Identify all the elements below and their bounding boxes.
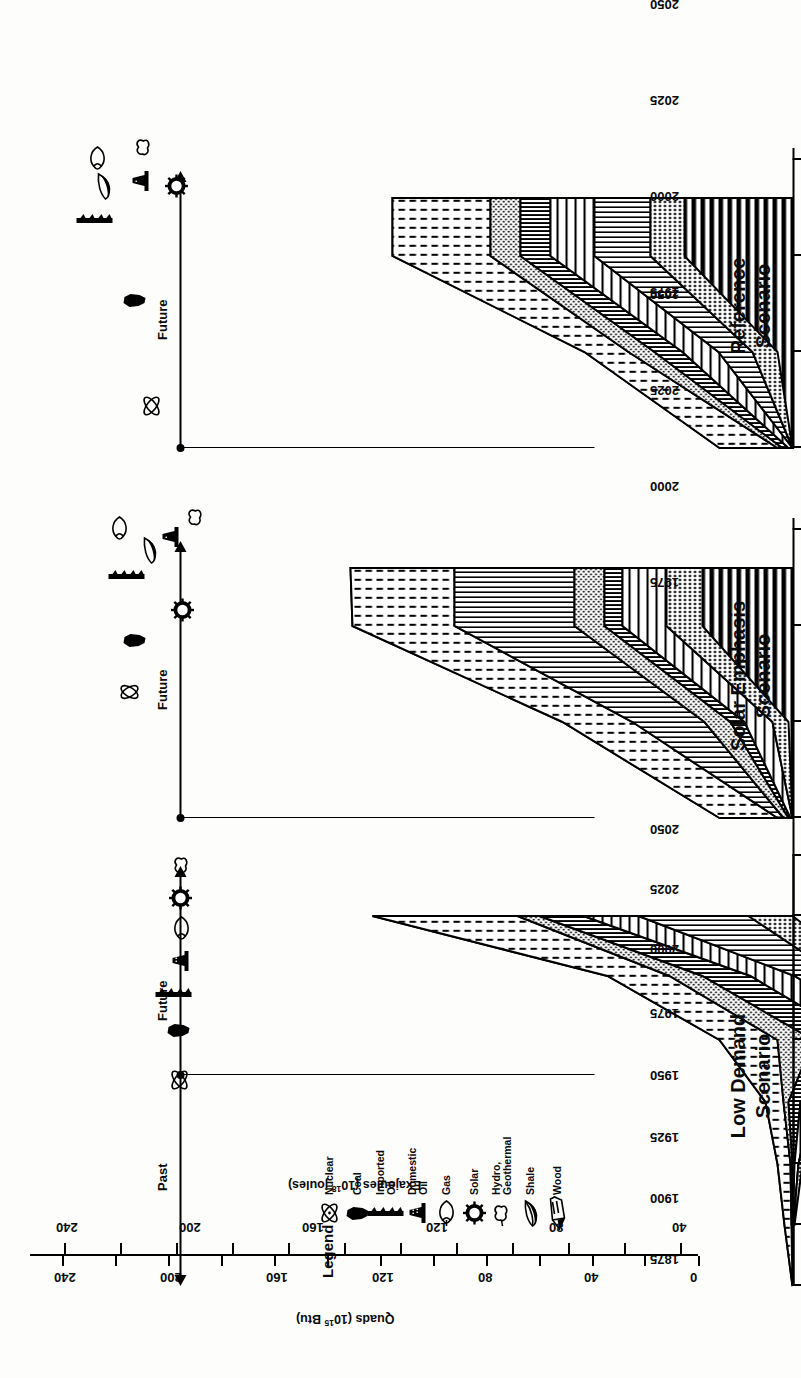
x-tick-label-solar: 1975: [650, 575, 679, 590]
x-tick-label-low-demand: 1925: [650, 1130, 679, 1145]
x-tick-label-low-demand: 1875: [650, 1252, 679, 1267]
x-tick-label-solar: 2000: [650, 479, 679, 494]
x-tick-label-reference: 2025: [650, 93, 679, 108]
x-tick-label-reference: 2050: [650, 0, 679, 12]
x-tick-label-low-demand: 1975: [650, 1006, 679, 1021]
x-tick-label-reference: 2000: [650, 189, 679, 204]
x-tick-label-reference: 1975: [650, 285, 679, 300]
x-tick-label-low-demand: 2050: [650, 822, 679, 837]
x-tick-label-solar: 2025: [650, 383, 679, 398]
x-tick-label-low-demand: 1950: [650, 1068, 679, 1083]
x-tick-label-low-demand: 1900: [650, 1191, 679, 1206]
x-tick-label-low-demand: 2025: [650, 882, 679, 897]
x-tick-label-low-demand: 2000: [650, 942, 679, 957]
